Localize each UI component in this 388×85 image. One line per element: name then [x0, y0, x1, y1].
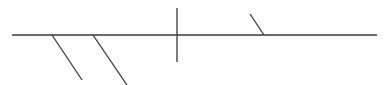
upper-diagonal-branch	[250, 14, 264, 35]
lower-diagonal-branch-2	[93, 35, 127, 85]
diagram-canvas	[0, 0, 388, 85]
line-diagram	[0, 0, 388, 85]
lower-diagonal-branch-1	[52, 35, 82, 80]
